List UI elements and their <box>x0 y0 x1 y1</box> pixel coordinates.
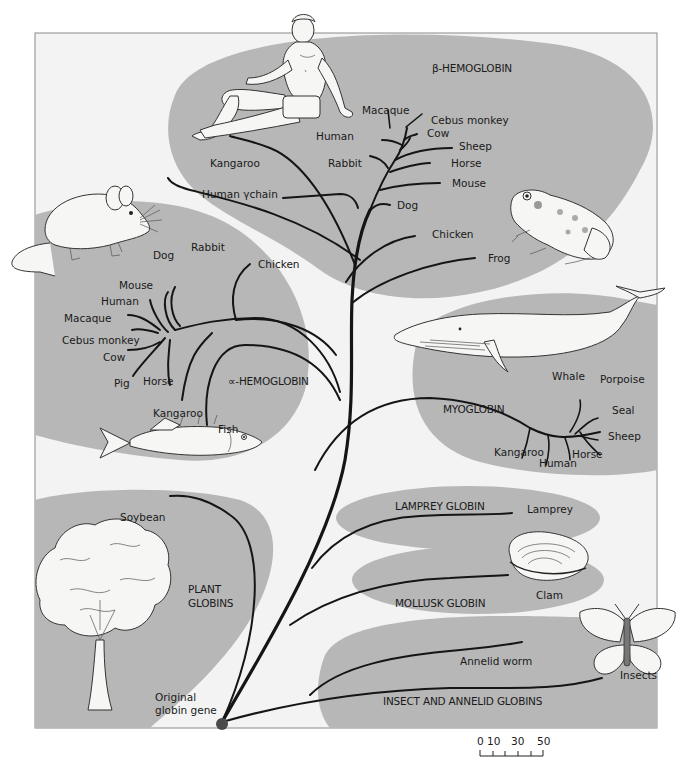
alpha-leaf-fish: Fish <box>218 423 238 435</box>
scale-label-10: 10 <box>487 735 500 747</box>
myoglobin-leaf-sheep: Sheep <box>608 430 641 442</box>
group-label-beta-hemoglobin: β-HEMOGLOBIN <box>432 62 512 74</box>
beta-leaf-sheep: Sheep <box>459 140 492 152</box>
globin-evolution-diagram: β-HEMOGLOBIN ∝-HEMOGLOBIN MYOGLOBIN LAMP… <box>0 0 679 769</box>
root-node <box>216 718 228 730</box>
alpha-leaf-human: Human <box>101 295 139 307</box>
alpha-leaf-rabbit: Rabbit <box>191 241 225 253</box>
beta-leaf-rabbit: Rabbit <box>328 157 362 169</box>
leaf-soybean: Soybean <box>120 511 166 523</box>
beta-leaf-mouse: Mouse <box>452 177 486 189</box>
alpha-leaf-horse: Horse <box>143 375 174 387</box>
alpha-leaf-kangaroo: Kangaroo <box>153 407 203 419</box>
beta-leaf-cow: Cow <box>427 127 450 139</box>
myoglobin-leaf-human: Human <box>539 457 577 469</box>
alpha-leaf-dog: Dog <box>153 249 174 261</box>
group-label-plant-globins-2: GLOBINS <box>188 597 234 609</box>
beta-leaf-dog: Dog <box>397 199 418 211</box>
beta-leaf-human-gamma-chain: Human γchain <box>202 188 278 200</box>
scale-bar: 0 10 30 50 <box>477 735 550 756</box>
myoglobin-leaf-porpoise: Porpoise <box>600 373 645 385</box>
leaf-annelid-worm: Annelid worm <box>460 655 532 667</box>
beta-leaf-human: Human <box>316 130 354 142</box>
alpha-leaf-mouse: Mouse <box>119 279 153 291</box>
alpha-leaf-chicken: Chicken <box>258 258 300 270</box>
alpha-leaf-macaque: Macaque <box>64 312 111 324</box>
alpha-leaf-cow: Cow <box>103 351 126 363</box>
leaf-insects: Insects <box>620 669 657 681</box>
leaf-clam: Clam <box>536 589 563 601</box>
group-label-alpha-hemoglobin: ∝-HEMOGLOBIN <box>228 375 309 387</box>
beta-leaf-cebus-monkey: Cebus monkey <box>431 114 509 126</box>
group-label-lamprey-globin: LAMPREY GLOBIN <box>395 500 485 512</box>
alpha-leaf-cebus-monkey: Cebus monkey <box>62 334 140 346</box>
alpha-leaf-pig: Pig <box>114 377 130 389</box>
beta-leaf-chicken: Chicken <box>432 228 474 240</box>
myoglobin-leaf-whale: Whale <box>552 370 585 382</box>
scale-label-0: 0 <box>477 735 484 747</box>
beta-leaf-macaque: Macaque <box>362 104 409 116</box>
beta-leaf-frog: Frog <box>488 252 510 264</box>
group-label-myoglobin: MYOGLOBIN <box>443 403 504 415</box>
leaf-lamprey: Lamprey <box>527 503 573 515</box>
scale-label-30: 30 <box>511 735 524 747</box>
beta-leaf-kangaroo: Kangaroo <box>210 157 260 169</box>
myoglobin-leaf-seal: Seal <box>612 404 634 416</box>
root-label-line2: globin gene <box>155 704 217 716</box>
group-label-mollusk-globin: MOLLUSK GLOBIN <box>395 597 485 609</box>
beta-leaf-horse: Horse <box>451 157 482 169</box>
group-label-plant-globins-1: PLANT <box>188 583 222 595</box>
scale-label-50: 50 <box>537 735 550 747</box>
group-label-insect-annelid-globins: INSECT AND ANNELID GLOBINS <box>383 695 543 707</box>
myoglobin-leaf-kangaroo: Kangaroo <box>494 446 544 458</box>
root-label-line1: Original <box>155 691 196 703</box>
